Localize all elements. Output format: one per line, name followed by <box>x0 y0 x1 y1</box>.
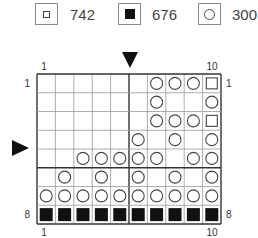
circle-stitch-icon <box>114 190 126 202</box>
filled-stitch-icon <box>58 208 71 221</box>
filled-stitch-icon <box>132 208 145 221</box>
square-stitch-icon <box>206 115 217 126</box>
circle-stitch-icon <box>132 171 144 183</box>
circle-stitch-icon <box>187 77 199 89</box>
circle-stitch-icon <box>95 152 107 164</box>
circle-stitch-icon <box>132 134 144 146</box>
bottom-label-first: 1 <box>41 227 47 238</box>
circle-stitch-icon <box>169 134 181 146</box>
circle-stitch-icon <box>206 134 218 146</box>
circle-stitch-icon <box>132 152 144 164</box>
top-label-last: 10 <box>206 61 218 72</box>
circle-stitch-icon <box>169 77 181 89</box>
circle-stitch-icon <box>77 152 89 164</box>
top-label-first: 1 <box>41 61 47 72</box>
left-label-last: 8 <box>24 209 30 220</box>
circle-stitch-icon <box>114 152 126 164</box>
circle-stitch-icon <box>187 190 199 202</box>
circle-stitch-icon <box>169 190 181 202</box>
filled-stitch-icon <box>169 208 182 221</box>
stitch-chart: 1 10 1 10 1 8 1 8 <box>0 0 258 238</box>
filled-stitch-icon <box>40 208 53 221</box>
circle-stitch-icon <box>187 115 199 127</box>
filled-stitch-icon <box>205 208 218 221</box>
circle-stitch-icon <box>151 152 163 164</box>
center-row-arrow-icon <box>12 140 29 156</box>
left-label-first: 1 <box>24 78 30 89</box>
right-label-first: 1 <box>226 78 232 89</box>
circle-stitch-icon <box>151 96 163 108</box>
circle-stitch-icon <box>206 190 218 202</box>
circle-stitch-icon <box>206 96 218 108</box>
filled-stitch-icon <box>77 208 90 221</box>
square-stitch-icon <box>206 78 217 89</box>
right-label-last: 8 <box>226 209 232 220</box>
circle-stitch-icon <box>187 152 199 164</box>
center-column-arrow-icon <box>122 52 138 68</box>
circle-stitch-icon <box>77 190 89 202</box>
circle-stitch-icon <box>151 77 163 89</box>
circle-stitch-icon <box>169 115 181 127</box>
circle-stitch-icon <box>132 190 144 202</box>
circle-stitch-icon <box>95 171 107 183</box>
filled-stitch-icon <box>95 208 108 221</box>
bottom-label-last: 10 <box>206 227 218 238</box>
circle-stitch-icon <box>169 171 181 183</box>
filled-stitch-icon <box>187 208 200 221</box>
filled-stitch-icon <box>150 208 163 221</box>
circle-stitch-icon <box>151 115 163 127</box>
circle-stitch-icon <box>59 190 71 202</box>
circle-stitch-icon <box>59 171 71 183</box>
circle-stitch-icon <box>151 190 163 202</box>
filled-stitch-icon <box>113 208 126 221</box>
circle-stitch-icon <box>206 152 218 164</box>
circle-stitch-icon <box>40 190 52 202</box>
circle-stitch-icon <box>95 190 107 202</box>
circle-stitch-icon <box>206 171 218 183</box>
